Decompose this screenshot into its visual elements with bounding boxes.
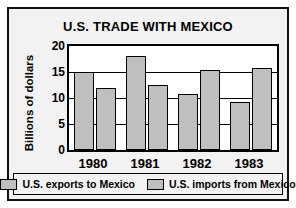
y-axis-tick-label: 0: [25, 144, 65, 156]
x-axis-tick-label-1980: 1980: [79, 156, 108, 171]
bar-1982-series2: [200, 70, 220, 150]
legend-swatch-icon: [147, 179, 164, 190]
legend-label: U.S. imports from Mexico: [169, 178, 296, 190]
y-axis-tick-label: 20: [25, 40, 65, 52]
chart-page: U.S. TRADE WITH MEXICO Billions of dolla…: [0, 0, 296, 208]
x-axis-tick-label-1982: 1982: [183, 156, 212, 171]
bar-1981-series2: [148, 85, 168, 150]
bar-1983-series1: [230, 102, 250, 150]
chart-card: U.S. TRADE WITH MEXICO Billions of dolla…: [7, 7, 289, 201]
bar-1981-series1: [126, 56, 146, 150]
chart-legend: U.S. exports to MexicoU.S. imports from …: [13, 173, 283, 195]
plot-area: 05101520: [67, 44, 279, 152]
bar-1980-series1: [74, 72, 94, 150]
y-axis-tick-label: 5: [25, 118, 65, 130]
y-axis-tick-label: 15: [25, 66, 65, 78]
legend-swatch-icon: [0, 179, 17, 190]
chart-title: U.S. TRADE WITH MEXICO: [9, 19, 287, 34]
x-axis-tick-label-1981: 1981: [131, 156, 160, 171]
bar-1980-series2: [96, 88, 116, 150]
legend-entry-2: U.S. imports from Mexico: [147, 178, 296, 190]
y-axis-tick-label: 10: [25, 92, 65, 104]
bar-1982-series1: [178, 94, 198, 150]
gridline: [69, 72, 277, 73]
x-axis-tick-label-1983: 1983: [235, 156, 264, 171]
legend-entry-1: U.S. exports to Mexico: [0, 178, 135, 190]
legend-label: U.S. exports to Mexico: [22, 178, 135, 190]
plot-inner: 05101520: [69, 46, 277, 150]
bar-1983-series2: [252, 68, 272, 150]
